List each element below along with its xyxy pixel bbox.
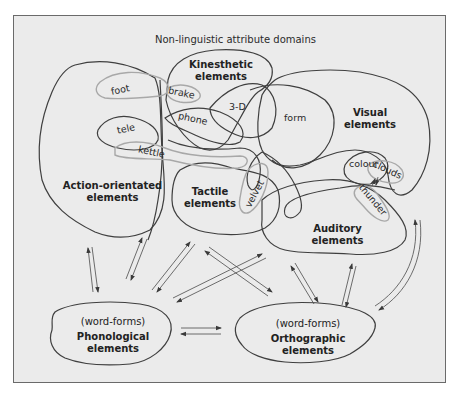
form-loop bbox=[250, 85, 334, 168]
auditory-label-line2: elements bbox=[305, 235, 370, 247]
auditory-label: Auditory elements bbox=[305, 223, 370, 247]
orthographic-sub: (word-forms) bbox=[262, 318, 354, 330]
visual-label: Visual elements bbox=[340, 107, 400, 131]
visual-region-outline bbox=[258, 70, 430, 195]
auditory-label-line1: Auditory bbox=[305, 223, 370, 235]
word-form: form bbox=[284, 112, 306, 124]
phonological-sub: (word-forms) bbox=[68, 316, 158, 328]
action-label-line1: Action-orientated bbox=[55, 180, 170, 192]
orthographic-label: (word-forms) Orthographic elements bbox=[262, 318, 354, 357]
kettle-loop bbox=[115, 142, 247, 168]
phonological-label-line2: elements bbox=[68, 343, 158, 355]
tactile-label-line1: Tactile bbox=[180, 186, 240, 198]
visual-label-line2: elements bbox=[340, 119, 400, 131]
kinesthetic-label: Kinesthetic elements bbox=[185, 59, 257, 83]
orthographic-label-line1: Orthographic bbox=[262, 333, 354, 345]
tactile-label-line2: elements bbox=[180, 198, 240, 210]
action-label: Action-orientated elements bbox=[55, 180, 170, 204]
orthographic-label-line2: elements bbox=[262, 345, 354, 357]
word-3d: 3-D bbox=[229, 101, 246, 113]
visual-label-line1: Visual bbox=[340, 107, 400, 119]
action-label-line2: elements bbox=[55, 192, 170, 204]
diagram-title: Non-linguistic attribute domains bbox=[155, 34, 316, 46]
phonological-label-line1: Phonological bbox=[68, 331, 158, 343]
kinesthetic-label-line2: elements bbox=[185, 71, 257, 83]
kinesthetic-label-line1: Kinesthetic bbox=[185, 59, 257, 71]
tactile-label: Tactile elements bbox=[180, 186, 240, 210]
phonological-label: (word-forms) Phonological elements bbox=[68, 316, 158, 355]
connector-strand bbox=[168, 140, 262, 190]
